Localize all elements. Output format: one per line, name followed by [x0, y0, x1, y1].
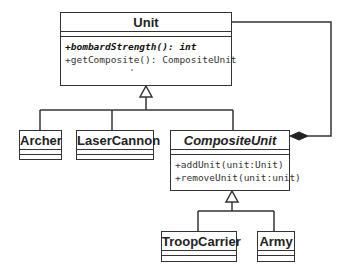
generalization-arrow-composite-icon [226, 191, 238, 202]
operation-get-composite: +getComposite(): CompositeUnit [65, 53, 227, 66]
class-army: Army [257, 231, 295, 262]
class-name: Army [258, 232, 294, 250]
class-name: TroopCarrier [162, 232, 236, 250]
class-name: Unit [61, 13, 231, 31]
operations: +addUnit(unit:Unit) +removeUnit(unit:uni… [171, 155, 289, 184]
class-archer: Archer [19, 130, 62, 160]
composition-line [231, 22, 331, 136]
operations: +bombardStrength(): int +getComposite():… [61, 37, 231, 80]
generalization-arrow-unit-icon [140, 86, 152, 97]
class-composite-unit: CompositeUnit +addUnit(unit:Unit) +remov… [170, 130, 290, 191]
class-unit: Unit +bombardStrength(): int +getComposi… [60, 12, 232, 86]
operation-bombard-strength: +bombardStrength(): int [65, 40, 227, 53]
class-name: CompositeUnit [171, 131, 289, 149]
operation-remove-unit: +removeUnit(unit:unit) [175, 171, 285, 184]
class-name: LaserCannon [77, 131, 153, 149]
operation-add-unit: +addUnit(unit:Unit) [175, 158, 285, 171]
class-name: Archer [20, 131, 61, 149]
class-laser-cannon: LaserCannon [76, 130, 154, 160]
uml-class-diagram: Unit +bombardStrength(): int +getComposi… [0, 0, 350, 274]
class-troop-carrier: TroopCarrier [161, 231, 237, 262]
composition-diamond-icon [290, 132, 308, 140]
